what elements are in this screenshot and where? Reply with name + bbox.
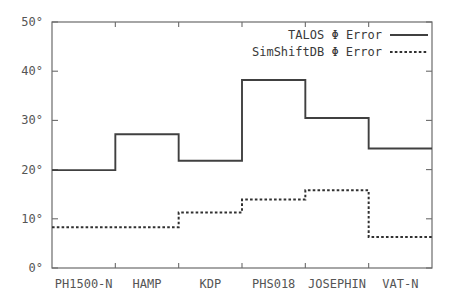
x-category-label-1: HAMP [133, 277, 162, 291]
legend-label-1: SimShiftDB Φ Error [252, 45, 382, 59]
y-tick-label: 40° [21, 64, 43, 78]
legend-label-0: TALOS Φ Error [288, 28, 382, 42]
series-layer [52, 80, 432, 237]
y-tick-label: 50° [21, 15, 43, 29]
series-line-simshiftdb [52, 190, 432, 237]
x-axis-category-labels: PH1500-NHAMPKDPPHS018JOSEPHINVAT-N [55, 277, 419, 291]
series-line-talos [52, 80, 432, 170]
chart-legend: TALOS Φ ErrorSimShiftDB Φ Error [252, 28, 428, 59]
phi-error-step-chart: 0°10°20°30°40°50° PH1500-NHAMPKDPPHS018J… [0, 0, 456, 306]
y-tick-label: 10° [21, 212, 43, 226]
y-tick-label: 0° [29, 261, 43, 275]
x-category-label-2: KDP [199, 277, 221, 291]
y-axis-tick-labels: 0°10°20°30°40°50° [21, 15, 43, 275]
x-category-label-5: VAT-N [382, 277, 418, 291]
y-tick-label: 20° [21, 163, 43, 177]
y-tick-label: 30° [21, 113, 43, 127]
x-category-label-4: JOSEPHIN [308, 277, 366, 291]
x-category-label-0: PH1500-N [55, 277, 113, 291]
x-category-label-3: PHS018 [252, 277, 295, 291]
chart-canvas: 0°10°20°30°40°50° PH1500-NHAMPKDPPHS018J… [0, 0, 456, 306]
